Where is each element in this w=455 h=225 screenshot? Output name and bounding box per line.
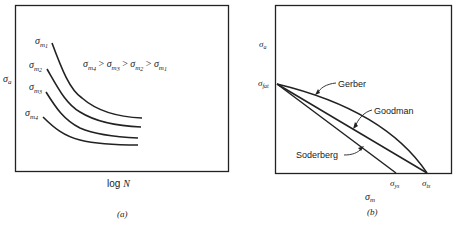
goodman-label: Goodman — [374, 106, 414, 116]
sigma-ys-label: σys — [390, 178, 400, 189]
curve-sigma-m2 — [47, 69, 141, 127]
panel-b: Gerber Goodman Soderberg σfat σa σys σts… — [258, 6, 452, 218]
curve-sigma-m1 — [52, 43, 142, 118]
sigma-fat-label: σfat — [258, 78, 269, 89]
sigma-ts-label: σts — [422, 178, 431, 189]
soderberg-label: Soderberg — [296, 150, 338, 160]
y-axis-label-a: σa — [3, 73, 12, 86]
curve-label-m1: σm1 — [35, 35, 48, 49]
stress-relation: σm4 > σm3 > σm2 > σm1 — [83, 58, 167, 73]
gerber-leader-arrow — [317, 83, 336, 94]
gerber-label: Gerber — [338, 79, 366, 89]
panel-a: σm1 σm2 σm3 σm4 σm4 > σm3 > σm2 > σm1 σa… — [3, 6, 229, 220]
caption-b: (b) — [367, 207, 378, 217]
x-axis-label-a: log N — [107, 178, 131, 189]
curve-label-m2: σm2 — [29, 59, 42, 73]
caption-a: (a) — [117, 209, 128, 219]
curve-label-m4: σm4 — [25, 107, 38, 121]
figure: σm1 σm2 σm3 σm4 σm4 > σm3 > σm2 > σm1 σa… — [0, 0, 455, 225]
curve-label-m3: σm3 — [29, 81, 42, 95]
goodman-arrowhead — [353, 122, 358, 129]
y-axis-label-b: σa — [259, 39, 266, 50]
x-axis-label-b: σm — [365, 191, 375, 204]
panel-a-frame — [16, 6, 229, 172]
